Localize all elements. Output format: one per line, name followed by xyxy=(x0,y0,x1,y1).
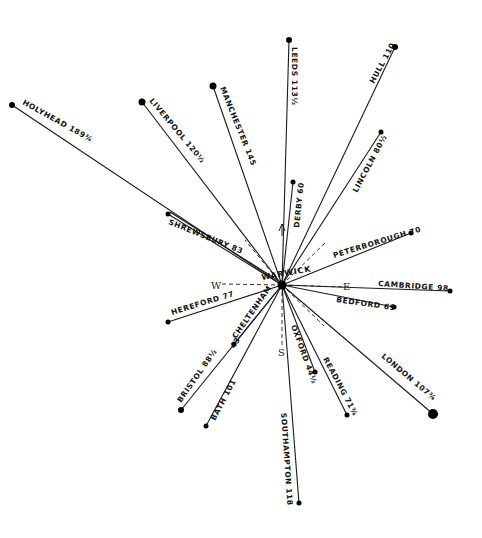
destination-label: LEEDS 113½ xyxy=(290,47,299,106)
town-dot xyxy=(204,424,209,429)
town-dot xyxy=(9,102,15,108)
compass-west: W xyxy=(211,280,222,291)
destination-label: HULL 110 xyxy=(368,41,397,85)
town-dot xyxy=(428,409,438,419)
town-dot xyxy=(166,212,171,217)
town-dot xyxy=(210,83,217,90)
town-dot xyxy=(178,407,184,413)
town-dot xyxy=(139,99,146,106)
distance-diagram: HOLYHEAD 189¾LIVERPOOL 120½MANCHESTER 14… xyxy=(0,0,482,538)
destination-label: BATH 101 xyxy=(209,378,238,422)
destination-label: SHREWSBURY 83 xyxy=(167,218,244,256)
destination-labels: HOLYHEAD 189¾LIVERPOOL 120½MANCHESTER 14… xyxy=(21,41,449,506)
destination-label: LONDON 107¾ xyxy=(380,352,438,403)
town-dot xyxy=(345,413,350,418)
hub-dot xyxy=(278,281,287,290)
destination-label: CAMBRIDGE 98 xyxy=(378,279,449,293)
southeast-dashed-line xyxy=(282,285,324,326)
west-dashed-line xyxy=(222,284,282,285)
route-liverpool xyxy=(139,99,283,286)
destination-label: HOLYHEAD 189¾ xyxy=(21,98,94,144)
destination-label: SOUTHAMPTON 118 xyxy=(279,413,294,506)
destination-label: BRISTOL 88½ xyxy=(175,347,219,404)
town-dot xyxy=(297,501,302,506)
destination-label: LINCOLN 80½ xyxy=(351,133,389,194)
route-manchester xyxy=(210,83,283,286)
destination-label: MANCHESTER 145 xyxy=(218,85,258,167)
destination-label: BEDFORD 69 xyxy=(336,295,396,312)
destination-label: PETERBOROUGH 70 xyxy=(332,225,422,260)
destination-label: READING 71¾ xyxy=(321,356,360,418)
town-dot xyxy=(286,37,292,43)
town-dot xyxy=(166,320,171,325)
route-line xyxy=(142,102,282,285)
destination-label: LIVERPOOL 120½ xyxy=(147,97,206,165)
compass-south: S xyxy=(278,347,285,358)
route-line xyxy=(282,285,347,415)
destination-label: 43 xyxy=(228,335,242,350)
route-line xyxy=(213,86,282,285)
destination-label: DERBY 60 xyxy=(292,182,306,228)
town-dot xyxy=(291,180,296,185)
compass-east: E xyxy=(343,281,350,292)
northeast-dashed-line xyxy=(282,242,326,285)
route-reading xyxy=(282,285,350,418)
destination-label: OXFORD 44½ xyxy=(289,324,319,386)
